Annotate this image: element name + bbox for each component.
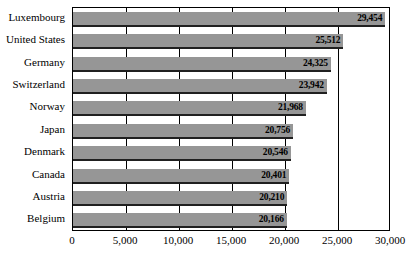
bar-value-label: 24,325 [303,58,328,69]
bar-row: 21,968 [73,101,391,116]
bar [73,12,385,27]
bar-value-label: 20,401 [261,170,286,181]
bar [73,34,343,49]
category-label: Austria [33,191,65,202]
bar-row: 25,512 [73,34,391,49]
bar-value-label: 23,942 [299,80,324,91]
bar-row: 20,166 [73,213,391,228]
bar [73,124,293,139]
category-label: Luxembourg [8,12,65,23]
bar-row: 23,942 [73,79,391,94]
category-axis-labels: LuxembourgUnited StatesGermanySwitzerlan… [0,7,69,231]
x-tick-label: 20,000 [269,234,299,246]
bar-row: 20,756 [73,124,391,139]
category-label: Norway [30,101,65,112]
category-label: Belgium [27,213,65,224]
x-tick-label: 15,000 [216,234,246,246]
plot-area: 29,45425,51224,32523,94221,96820,75620,5… [72,7,390,231]
x-tick-label: 5,000 [113,234,138,246]
bar-row: 20,546 [73,146,391,161]
category-label: Switzerland [12,79,65,90]
category-label: Japan [40,124,65,135]
bar [73,191,287,206]
category-label: Canada [32,169,65,180]
x-tick-label: 30,000 [375,234,405,246]
bar-row: 29,454 [73,12,391,27]
x-tick-label: 25,000 [322,234,352,246]
bar [73,146,291,161]
category-label: Denmark [24,146,65,157]
bar [73,169,289,184]
bar-value-label: 20,546 [263,147,288,158]
bar [73,79,327,94]
bar-value-label: 20,210 [259,192,284,203]
category-label: United States [6,34,65,45]
x-tick-label: 0 [69,234,75,246]
x-tick-label: 10,000 [163,234,193,246]
bar [73,101,306,116]
bar-value-label: 20,166 [259,214,284,225]
bar-row: 20,210 [73,191,391,206]
bar-value-label: 29,454 [357,13,382,24]
bar-value-label: 20,756 [265,125,290,136]
bar-value-label: 25,512 [315,35,340,46]
bar-row: 20,401 [73,169,391,184]
bar-chart: LuxembourgUnited StatesGermanySwitzerlan… [0,0,417,265]
bar [73,213,287,228]
bar-row: 24,325 [73,57,391,72]
category-label: Germany [24,57,65,68]
bar [73,57,331,72]
x-axis-tick-labels: 05,00010,00015,00020,00025,00030,000 [72,234,390,250]
bar-value-label: 21,968 [278,102,303,113]
